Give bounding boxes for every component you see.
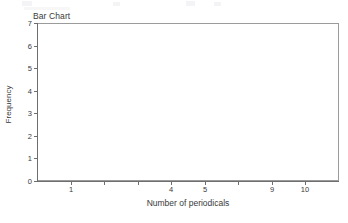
scan-artifact (22, 1, 32, 6)
y-axis-tick (34, 136, 38, 137)
y-axis-tick (34, 113, 38, 114)
bars-layer (38, 24, 338, 180)
scan-artifact (186, 1, 195, 6)
chart-title: Bar Chart (33, 11, 70, 21)
y-axis-tick-label: 1 (6, 154, 32, 163)
x-axis-line (37, 181, 339, 182)
x-axis-tick-label: 5 (190, 185, 220, 194)
y-axis-tick-label: 7 (6, 19, 32, 28)
bar-chart-figure: Bar Chart 01234567 Frequency 145910 Numb… (0, 0, 348, 223)
y-axis-tick (34, 68, 38, 69)
plot-area (37, 23, 339, 181)
x-axis-tick (104, 182, 105, 185)
x-axis-tick (238, 182, 239, 185)
y-axis-title: Frequency (4, 63, 13, 147)
y-axis-tick (34, 91, 38, 92)
scan-artifact (24, 7, 70, 10)
x-axis-tick-label: 10 (290, 185, 320, 194)
y-axis-tick-label: 0 (6, 177, 32, 186)
y-axis-tick-label: 6 (6, 41, 32, 50)
x-axis-tick (138, 182, 139, 185)
x-axis-title: Number of periodicals (37, 198, 339, 208)
y-axis-tick (34, 46, 38, 47)
x-axis-tick-label: 1 (56, 185, 86, 194)
scan-artifact (113, 2, 120, 6)
y-axis-tick (34, 23, 38, 24)
scan-artifact (214, 2, 221, 6)
y-axis-tick (34, 158, 38, 159)
x-axis-tick-label: 4 (156, 185, 186, 194)
x-axis-tick-label: 9 (257, 185, 287, 194)
